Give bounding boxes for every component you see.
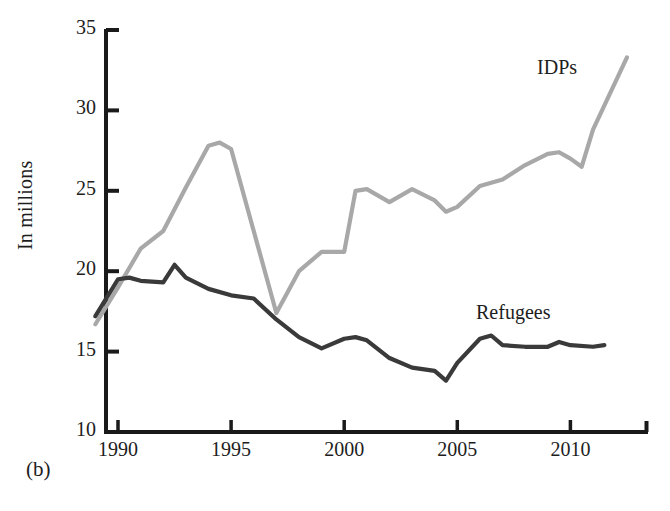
y-tick-label: 15 bbox=[40, 338, 96, 361]
series-lines bbox=[95, 57, 627, 380]
series-label-idps: IDPs bbox=[537, 56, 577, 79]
x-tick-label: 2000 bbox=[304, 438, 384, 461]
series-label-refugees: Refugees bbox=[476, 301, 550, 324]
x-tick-label: 2005 bbox=[417, 438, 497, 461]
figure-panel-b: In millions (b) 101520253035199019952000… bbox=[0, 0, 670, 511]
y-tick-label: 25 bbox=[40, 177, 96, 200]
axis-lines bbox=[104, 29, 648, 434]
y-tick-label: 35 bbox=[40, 16, 96, 39]
axis-ticks bbox=[106, 30, 570, 432]
y-tick-label: 30 bbox=[40, 96, 96, 119]
x-tick-label: 1995 bbox=[191, 438, 271, 461]
x-tick-label: 1990 bbox=[78, 438, 158, 461]
x-tick-label: 2010 bbox=[530, 438, 610, 461]
y-tick-label: 20 bbox=[40, 257, 96, 280]
panel-label: (b) bbox=[26, 457, 51, 482]
y-axis-title: In millions bbox=[14, 70, 37, 250]
series-line-idps bbox=[95, 57, 627, 324]
